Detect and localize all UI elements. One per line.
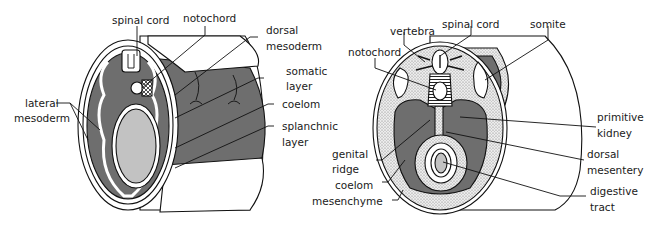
label-notochord: notochord (183, 12, 236, 24)
label-lateral-mesoderm-1: lateral (25, 97, 59, 109)
label-primitive-kidney-2: kidney (597, 127, 632, 139)
label-somatic-layer-1: somatic (286, 65, 328, 77)
label-dorsal-mesentery-2: mesentery (587, 164, 643, 176)
label-mesenchyme: mesenchyme (312, 195, 383, 207)
label-lateral-mesoderm-2: mesoderm (14, 112, 70, 124)
left-embryo-drawing (78, 36, 265, 212)
label-genital-ridge-2: ridge (332, 163, 359, 175)
label-spinal-cord: spinal cord (112, 14, 169, 26)
label-coelom: coelom (335, 179, 373, 191)
label-dorsal-mesoderm-2: mesoderm (266, 40, 322, 52)
label-dorsal-mesoderm-1: dorsal (266, 24, 298, 36)
label-coelom: coelom (282, 98, 320, 110)
label-digestive-tract-1: digestive (590, 185, 638, 197)
label-somatic-layer-2: layer (286, 80, 313, 92)
label-notochord: notochord (348, 46, 401, 58)
label-splanchnic-layer-2: layer (282, 136, 309, 148)
label-digestive-tract-2: tract (590, 201, 615, 213)
embryo-diagram: spinal cord notochord dorsal mesoderm so… (0, 0, 655, 225)
label-spinal-cord: spinal cord (442, 18, 499, 30)
label-splanchnic-layer-1: splanchnic (282, 120, 338, 132)
label-vertebra: vertebra (390, 25, 435, 37)
label-genital-ridge-1: genital (332, 148, 368, 160)
label-primitive-kidney-1: primitive (597, 111, 644, 123)
label-somite: somite (530, 18, 566, 30)
label-dorsal-mesentery-1: dorsal (587, 148, 619, 160)
right-embryo-drawing (373, 36, 582, 214)
